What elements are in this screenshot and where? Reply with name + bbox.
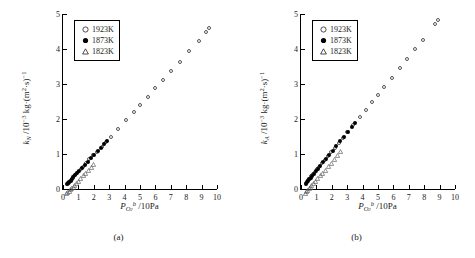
figure-container: 012345678910012345 1923K 1873K — [0, 0, 475, 258]
y-tick-label: 2 — [289, 115, 298, 124]
panel-caption-b: (b) — [238, 232, 475, 242]
y-tick-label: 4 — [289, 45, 298, 54]
y-tick — [301, 14, 305, 15]
data-point — [436, 18, 440, 22]
data-point — [433, 22, 437, 26]
plot-area-a: 012345678910012345 1923K 1873K — [0, 0, 237, 258]
data-point — [138, 103, 142, 107]
x-tick — [202, 185, 203, 189]
data-point — [376, 93, 380, 97]
x-tick — [363, 185, 364, 189]
x-tick — [94, 185, 95, 189]
y-tick-label: 0 — [51, 185, 60, 194]
legend-row: 1873K — [317, 35, 352, 46]
data-point — [358, 115, 362, 119]
data-point — [364, 108, 368, 112]
y-tick-label: 0 — [289, 185, 298, 194]
data-point — [99, 146, 103, 150]
y-tick — [63, 154, 67, 155]
y-axis-label-a: kN /10−3 kg·(m2·s)−1 — [20, 20, 32, 196]
data-point — [169, 69, 173, 73]
filled-circle-icon — [317, 37, 330, 44]
legend-row: 1923K — [79, 24, 114, 35]
x-tick — [186, 185, 187, 189]
legend-row: 1823K — [317, 46, 352, 57]
panel-caption-a: (a) — [0, 232, 237, 242]
data-point — [109, 135, 113, 139]
legend-label: 1823K — [92, 47, 114, 57]
data-point — [342, 135, 346, 139]
legend-label: 1873K — [330, 36, 352, 46]
data-point — [405, 57, 409, 61]
y-tick — [301, 49, 305, 50]
data-point — [187, 49, 191, 53]
data-point — [398, 66, 402, 70]
x-tick — [171, 185, 172, 189]
data-point — [421, 38, 425, 42]
x-tick — [440, 185, 441, 189]
y-tick-label: 3 — [289, 80, 298, 89]
legend-a: 1923K 1873K 1823K — [74, 20, 120, 61]
x-tick — [378, 185, 379, 189]
legend-label: 1923K — [330, 25, 352, 35]
plot-area-b: 012345678910012345 1923K 1873K — [238, 0, 475, 258]
data-point — [153, 86, 157, 90]
y-axis-label-b: kA /10−3 kg·(m2·s)−1 — [258, 20, 270, 196]
x-tick — [332, 185, 333, 189]
y-tick — [63, 49, 67, 50]
open-circle-icon — [317, 26, 330, 33]
data-point — [197, 39, 201, 43]
data-point — [382, 85, 386, 89]
data-point — [178, 60, 182, 64]
data-point — [350, 125, 354, 129]
y-tick-label: 4 — [51, 45, 60, 54]
x-axis-label-b: PO2b /10Pa — [300, 200, 455, 212]
data-point — [346, 130, 350, 134]
data-point — [102, 142, 106, 146]
x-tick — [393, 185, 394, 189]
data-point — [105, 139, 109, 143]
y-tick-label: 1 — [289, 150, 298, 159]
y-tick — [301, 84, 305, 85]
x-tick — [409, 185, 410, 189]
legend-label: 1923K — [92, 25, 114, 35]
y-tick-label: 5 — [51, 10, 60, 19]
x-tick — [140, 185, 141, 189]
y-tick-label: 3 — [51, 80, 60, 89]
data-point — [338, 140, 343, 145]
chart-panel-b: 012345678910012345 1923K 1873K — [238, 0, 475, 258]
data-point — [124, 118, 128, 122]
x-axis-label-a: PO2b /10Pa — [62, 200, 217, 212]
data-point — [116, 127, 120, 131]
y-tick — [63, 119, 67, 120]
data-point — [91, 153, 96, 158]
open-triangle-icon — [317, 48, 330, 55]
x-tick — [109, 185, 110, 189]
chart-panel-a: 012345678910012345 1923K 1873K — [0, 0, 237, 258]
y-tick — [301, 154, 305, 155]
x-tick — [217, 185, 218, 189]
x-tick — [424, 185, 425, 189]
open-circle-icon — [79, 26, 92, 33]
y-tick — [63, 84, 67, 85]
y-tick-label: 2 — [51, 115, 60, 124]
x-tick — [347, 185, 348, 189]
data-point — [207, 26, 211, 30]
data-point — [146, 95, 150, 99]
data-point — [390, 76, 394, 80]
data-point — [132, 110, 136, 114]
legend-row: 1873K — [79, 35, 114, 46]
data-point — [161, 78, 165, 82]
x-tick — [125, 185, 126, 189]
x-tick — [155, 185, 156, 189]
x-tick — [316, 185, 317, 189]
data-point — [353, 121, 357, 125]
y-tick-label: 1 — [51, 150, 60, 159]
data-point — [413, 47, 417, 51]
legend-label: 1823K — [330, 47, 352, 57]
filled-circle-icon — [79, 37, 92, 44]
legend-label: 1873K — [92, 36, 114, 46]
legend-b: 1923K 1873K 1823K — [312, 20, 358, 61]
data-point — [370, 100, 374, 104]
legend-row: 1823K — [79, 46, 114, 57]
